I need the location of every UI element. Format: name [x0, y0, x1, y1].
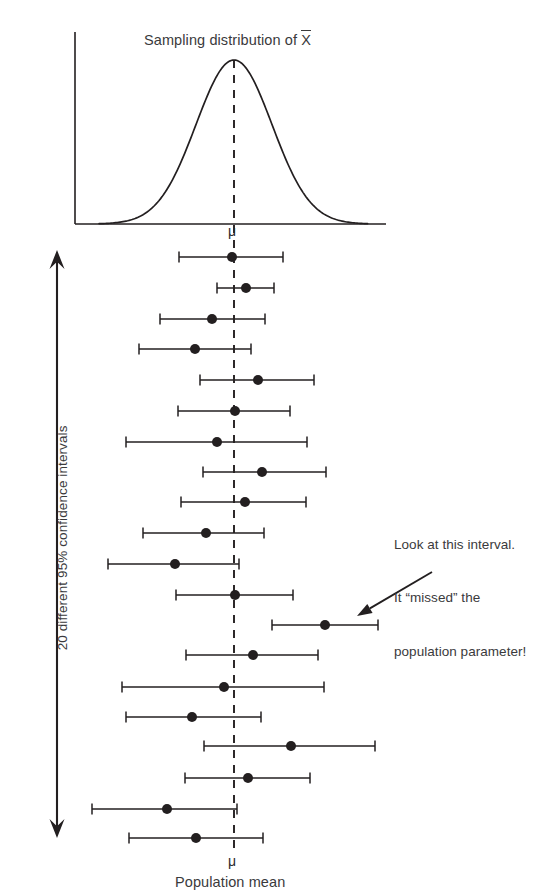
confidence-interval-row	[179, 252, 283, 263]
confidence-interval-row	[176, 590, 293, 601]
confidence-interval-row	[272, 620, 378, 631]
interval-center-dot	[170, 559, 180, 569]
x-bar-symbol: X	[301, 31, 311, 50]
interval-center-dot	[212, 437, 222, 447]
interval-center-dot	[253, 375, 263, 385]
annotation-line-2: It “missed” the	[394, 589, 526, 607]
interval-center-dot	[190, 344, 200, 354]
annotation-line-3: population parameter!	[394, 643, 526, 661]
confidence-interval-row	[181, 497, 306, 508]
interval-center-dot	[230, 406, 240, 416]
interval-center-dot	[286, 741, 296, 751]
vertical-axis-label: 20 different 95% confidence intervals	[54, 238, 72, 838]
interval-center-dot	[248, 650, 258, 660]
interval-center-dot	[187, 712, 197, 722]
interval-center-dot	[162, 804, 172, 814]
confidence-interval-row	[126, 712, 261, 723]
x-bar-overline	[301, 30, 311, 31]
x-axis-label: Population mean	[175, 873, 285, 892]
mu-label-bottom: μ	[228, 852, 236, 870]
confidence-interval-row	[143, 528, 264, 539]
annotation-line-1: Look at this interval.	[394, 536, 526, 554]
confidence-interval-row	[203, 467, 326, 478]
interval-center-dot	[257, 467, 267, 477]
interval-center-dot	[191, 833, 201, 843]
interval-center-dot	[219, 682, 229, 692]
interval-center-dot	[201, 528, 211, 538]
chart-title-text: Sampling distribution of	[144, 32, 301, 48]
interval-center-dot	[320, 620, 330, 630]
confidence-interval-row	[178, 406, 290, 417]
confidence-interval-row	[126, 437, 307, 448]
confidence-intervals-group	[92, 252, 378, 844]
mu-label-top: μ	[228, 222, 236, 240]
confidence-interval-row	[217, 283, 274, 294]
interval-center-dot	[241, 283, 251, 293]
confidence-interval-row	[186, 650, 318, 661]
interval-center-dot	[240, 497, 250, 507]
confidence-interval-row	[92, 804, 237, 815]
confidence-interval-row	[160, 314, 265, 325]
confidence-interval-row	[108, 559, 239, 570]
x-bar-letter: X	[301, 32, 311, 48]
annotation-text-block: Look at this interval. It “missed” the p…	[394, 500, 526, 696]
confidence-interval-row	[185, 773, 310, 784]
interval-center-dot	[243, 773, 253, 783]
confidence-interval-row	[129, 833, 263, 844]
interval-center-dot	[230, 590, 240, 600]
confidence-interval-row	[200, 375, 314, 386]
interval-center-dot	[207, 314, 217, 324]
callout-arrow-head-icon	[357, 604, 373, 616]
figure-canvas	[0, 0, 558, 896]
confidence-interval-row	[204, 741, 375, 752]
interval-center-dot	[227, 252, 237, 262]
confidence-interval-figure: Sampling distribution of X μ μ Populatio…	[0, 0, 558, 896]
chart-title: Sampling distribution of X	[144, 31, 311, 50]
confidence-interval-row	[122, 682, 324, 693]
